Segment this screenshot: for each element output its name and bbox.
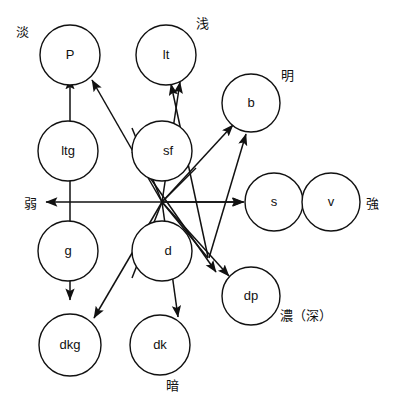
node-d[interactable]: d bbox=[132, 221, 192, 281]
node-label-s: s bbox=[271, 194, 278, 209]
node-dk[interactable]: dk bbox=[130, 315, 190, 375]
node-s[interactable]: s bbox=[245, 173, 303, 231]
node-label-d: d bbox=[164, 243, 171, 258]
edge-hub-to-b-alt bbox=[209, 134, 246, 258]
axis-label-light: 浅 bbox=[196, 16, 209, 31]
node-lt[interactable]: lt bbox=[136, 25, 196, 85]
node-label-v: v bbox=[328, 194, 335, 209]
nodes-layer: P lt b ltg sf s bbox=[38, 25, 360, 376]
axis-label-bright: 明 bbox=[281, 68, 294, 83]
node-label-dp: dp bbox=[244, 288, 258, 303]
node-label-b: b bbox=[247, 95, 254, 110]
node-P[interactable]: P bbox=[40, 25, 100, 85]
axis-label-deep: 濃（深） bbox=[280, 308, 332, 323]
node-label-g: g bbox=[64, 243, 71, 258]
edges-layer bbox=[92, 80, 246, 318]
tone-system-diagram: P lt b ltg sf s bbox=[0, 0, 399, 400]
axis-label-dark: 暗 bbox=[166, 378, 179, 393]
axis-label-strong: 強 bbox=[366, 196, 379, 211]
node-b[interactable]: b bbox=[222, 74, 280, 132]
node-g[interactable]: g bbox=[38, 221, 98, 281]
node-label-dkg: dkg bbox=[60, 337, 81, 352]
node-label-ltg: ltg bbox=[61, 143, 75, 158]
axis-label-pale: 淡 bbox=[16, 24, 29, 39]
node-label-dk: dk bbox=[153, 337, 167, 352]
axis-label-weak: 弱 bbox=[24, 196, 37, 211]
node-label-lt: lt bbox=[163, 47, 170, 62]
node-circle-d[interactable] bbox=[132, 221, 192, 281]
node-dp[interactable]: dp bbox=[222, 267, 280, 325]
node-ltg[interactable]: ltg bbox=[38, 121, 98, 181]
diagram-canvas: P lt b ltg sf s bbox=[0, 0, 399, 400]
node-label-sf: sf bbox=[163, 143, 174, 158]
node-sf[interactable]: sf bbox=[132, 121, 192, 181]
node-dkg[interactable]: dkg bbox=[39, 314, 101, 376]
node-label-P: P bbox=[66, 47, 75, 62]
node-v[interactable]: v bbox=[302, 173, 360, 231]
